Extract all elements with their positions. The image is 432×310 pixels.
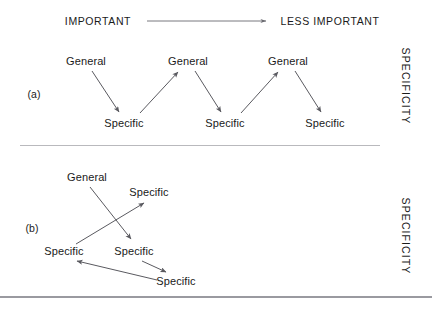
node-b-specific-left: Specific — [44, 245, 83, 257]
figure-bottom-rule — [0, 296, 432, 298]
edge-b-general-to-specific-middle — [90, 187, 131, 239]
header-label-less-important: LESS IMPORTANT — [280, 15, 379, 27]
edge-a-general2-to-specific2 — [195, 71, 221, 112]
header-label-important: IMPORTANT — [65, 15, 131, 27]
diagram-edges-layer — [0, 0, 432, 310]
edge-a-general1-to-specific1 — [92, 71, 119, 112]
node-b-specific-bottom: Specific — [156, 275, 195, 287]
node-b-general: General — [67, 171, 107, 183]
node-b-specific-middle: Specific — [114, 245, 153, 257]
edge-b-specific-left-to-specific-upper — [76, 203, 144, 244]
node-a-general-2: General — [168, 55, 208, 67]
node-a-general-3: General — [268, 55, 308, 67]
axis-label-specificity-a: SPECIFICITY — [400, 48, 412, 125]
node-b-specific-upper-right: Specific — [129, 186, 168, 198]
edge-b-specific-middle-to-specific-bottom — [142, 261, 166, 272]
edge-b-specific-bottom-to-specific-left — [77, 261, 157, 280]
panel-divider — [20, 145, 380, 146]
panel-tag-b: (b) — [26, 222, 39, 234]
edge-a-specific1-to-general2 — [140, 72, 178, 113]
panel-tag-a: (a) — [28, 88, 41, 100]
node-a-general-1: General — [66, 55, 106, 67]
figure-specificity-diagram: IMPORTANT LESS IMPORTANT (a) General Spe… — [0, 0, 432, 310]
edge-a-general3-to-specific3 — [295, 71, 321, 112]
edge-a-specific2-to-general3 — [241, 72, 278, 113]
axis-label-specificity-b: SPECIFICITY — [400, 198, 412, 275]
node-a-specific-3: Specific — [305, 117, 344, 129]
node-a-specific-1: Specific — [104, 117, 143, 129]
node-a-specific-2: Specific — [205, 117, 244, 129]
